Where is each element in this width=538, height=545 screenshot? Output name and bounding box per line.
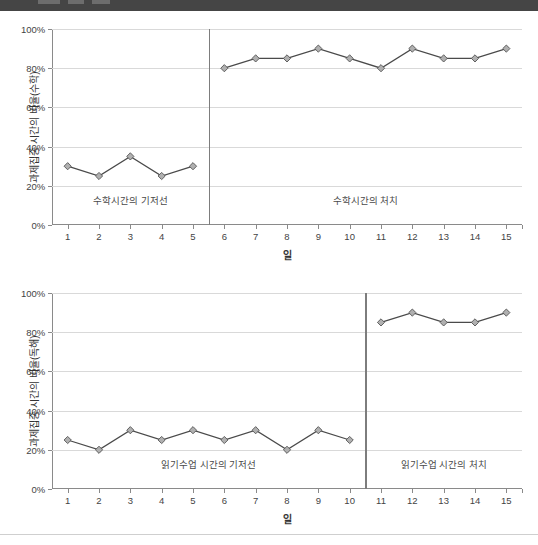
- data-point-marker: [346, 436, 353, 443]
- data-point-marker: [377, 65, 384, 72]
- data-point-marker: [64, 436, 71, 443]
- data-point-marker: [283, 446, 290, 453]
- data-point-marker: [503, 309, 510, 316]
- data-point-marker: [95, 172, 102, 179]
- header-smudge-3: [92, 0, 110, 4]
- data-point-marker: [95, 446, 102, 453]
- data-point-marker: [252, 427, 259, 434]
- data-point-marker: [252, 55, 259, 62]
- data-point-marker: [189, 163, 196, 170]
- data-point-marker: [315, 427, 322, 434]
- data-point-marker: [440, 55, 447, 62]
- figure-page: 0%20%40%60%80%100%123456789101112131415일…: [0, 0, 538, 545]
- data-point-marker: [127, 427, 134, 434]
- series-line: [68, 430, 350, 450]
- data-point-marker: [471, 319, 478, 326]
- data-series-layer: [0, 11, 538, 285]
- data-point-marker: [503, 45, 510, 52]
- chart-math: 0%20%40%60%80%100%123456789101112131415일…: [0, 11, 538, 273]
- data-point-marker: [409, 45, 416, 52]
- bottom-divider: [0, 534, 538, 535]
- data-point-marker: [377, 319, 384, 326]
- top-header-band: [0, 0, 538, 11]
- data-point-marker: [127, 153, 134, 160]
- data-point-marker: [64, 163, 71, 170]
- series-line: [224, 49, 506, 69]
- data-point-marker: [221, 65, 228, 72]
- header-smudge-2: [68, 0, 84, 4]
- data-point-marker: [158, 172, 165, 179]
- data-point-marker: [315, 45, 322, 52]
- data-point-marker: [158, 436, 165, 443]
- data-point-marker: [409, 309, 416, 316]
- header-smudge-1: [38, 0, 60, 4]
- data-point-marker: [221, 436, 228, 443]
- data-point-marker: [346, 55, 353, 62]
- data-point-marker: [189, 427, 196, 434]
- plot-area-math: 0%20%40%60%80%100%123456789101112131415일…: [0, 11, 538, 273]
- plot-area-reading: 0%20%40%60%80%100%123456789101112131415일…: [0, 273, 538, 531]
- data-point-marker: [440, 319, 447, 326]
- data-point-marker: [283, 55, 290, 62]
- chart-reading: 0%20%40%60%80%100%123456789101112131415일…: [0, 273, 538, 531]
- data-point-marker: [471, 55, 478, 62]
- data-series-layer: [0, 273, 538, 545]
